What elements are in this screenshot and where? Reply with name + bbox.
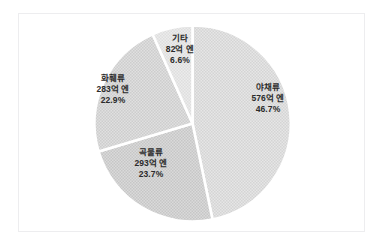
pie-chart-area: 야채류 576억 엔 46.7% 곡물류 293억 엔 23.7% 화훼류 28…: [19, 14, 366, 233]
pie-chart-svg: [19, 14, 366, 233]
chart-figure-panel: 야채류 576억 엔 46.7% 곡물류 293억 엔 23.7% 화훼류 28…: [18, 13, 365, 232]
